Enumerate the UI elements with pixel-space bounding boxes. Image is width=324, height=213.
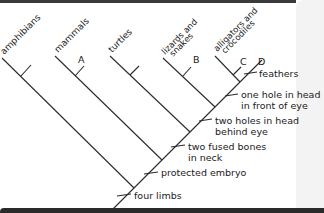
tick-lizards <box>183 67 191 76</box>
trait-tick-feathers <box>244 72 257 74</box>
taxon-amphibians: amphibians <box>0 12 43 56</box>
marker-a: A <box>78 54 85 65</box>
trait-four-limbs: four limbs <box>134 190 182 201</box>
branch-amphibians <box>2 58 134 188</box>
trait-tick-four-limbs <box>117 194 131 196</box>
trait-one-hole-line2: in front of eye <box>241 100 308 111</box>
trait-tick-two-holes <box>199 119 212 121</box>
tick-alligators <box>233 67 241 75</box>
bottom-frame-bar <box>0 208 324 213</box>
branch-mammals <box>55 56 162 160</box>
cladogram: amphibians mammals turtles lizards and s… <box>0 0 324 213</box>
trait-fused-bones-line1: two fused bones <box>188 141 266 152</box>
taxon-mammals: mammals <box>52 16 91 55</box>
trait-one-hole-line1: one hole in head <box>241 89 320 100</box>
branch-lizards <box>163 58 215 107</box>
trait-two-holes-line1: two holes in head <box>215 115 299 126</box>
trait-two-holes-line2: behind eye <box>215 126 268 137</box>
marker-c: C <box>240 56 247 67</box>
branch-alligators <box>215 56 240 82</box>
marker-b: B <box>193 54 200 65</box>
trait-feathers: feathers <box>259 68 299 79</box>
taxon-turtles: turtles <box>106 26 134 54</box>
trait-protected-embryo: protected embryo <box>161 167 247 178</box>
tick-turtles <box>130 66 139 75</box>
trait-fused-bones-line2: in neck <box>188 152 223 163</box>
tick-mammals <box>75 66 84 76</box>
marker-d: D <box>258 56 265 67</box>
trait-tick-protected-embryo <box>144 172 158 174</box>
tick-amphibians <box>21 65 31 76</box>
trait-tick-fused-bones <box>171 145 185 147</box>
